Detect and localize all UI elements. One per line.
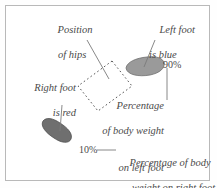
label-line: is red xyxy=(14,107,76,119)
label-right-foot-is-red: Right foot is red xyxy=(14,70,76,144)
label-percentage-right-foot: Percentage of body weight on right foot xyxy=(119,145,214,188)
label-line: of hips xyxy=(47,49,93,61)
label-line: Left foot xyxy=(160,24,195,35)
diagram-figure: Position of hips Left foot is blue Right… xyxy=(0,0,217,188)
label-left-foot-is-blue: Left foot is blue xyxy=(149,12,195,86)
label-line: weight on right foot xyxy=(119,182,214,188)
label-line: Position xyxy=(58,24,93,35)
label-line: Percentage xyxy=(117,100,164,111)
value-right-foot-percent: 10% xyxy=(79,144,97,156)
label-line: Right foot xyxy=(34,82,76,93)
label-line: Percentage of body xyxy=(130,157,211,168)
value-left-foot-percent: 90% xyxy=(163,59,181,71)
label-line: of body weight xyxy=(101,125,164,137)
